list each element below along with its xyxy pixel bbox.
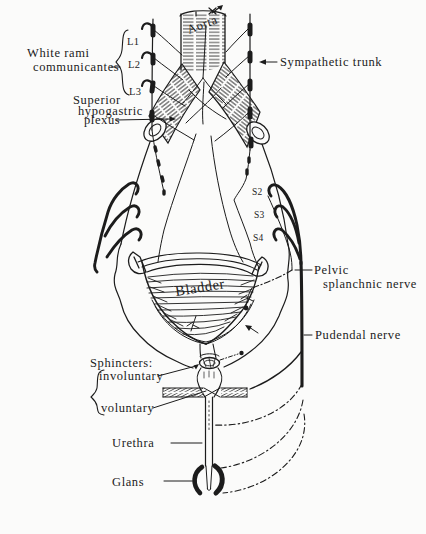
left-sacral-hook-1 — [95, 183, 138, 272]
involuntary-leader — [158, 366, 196, 376]
aorta-arrowhead-icon — [217, 5, 223, 11]
bladder-body — [129, 252, 269, 344]
label-white-rami-1: White rami — [27, 46, 90, 60]
vase-ticks — [204, 371, 214, 378]
right-trunk-tail — [234, 150, 258, 266]
urethra-and-glans — [195, 397, 223, 493]
label-sympathetic-trunk: Sympathetic trunk — [280, 55, 382, 69]
label-pudendal: Pudendal nerve — [315, 328, 401, 342]
label-white-rami-2: communicantes — [33, 60, 119, 74]
glans-left-crescent — [195, 467, 202, 493]
right-ureter-horn — [252, 257, 268, 276]
label-pelvic-splanchnic-1: Pelvic — [314, 263, 349, 277]
ring-dashdot-twig — [220, 354, 238, 360]
external-sphincter-x — [204, 388, 220, 397]
label-l2: L2 — [128, 59, 140, 70]
left-sacral-hook-3 — [107, 229, 141, 257]
label-urethra: Urethra — [112, 436, 154, 450]
label-sup-hypogastric-3: plexus — [84, 113, 120, 127]
nerve-twig-dot — [244, 306, 249, 311]
label-l3: L3 — [129, 86, 141, 97]
neck-collar — [200, 354, 219, 356]
glans-right-crescent — [215, 466, 222, 493]
label-s3: S3 — [254, 210, 265, 220]
urethra-tip — [206, 466, 212, 491]
hypogastric-nerve-right — [211, 136, 243, 262]
label-voluntary: voluntary — [101, 401, 154, 415]
pelvic-outline — [114, 134, 289, 368]
outer-wavy-left — [114, 244, 193, 368]
label-s4: S4 — [253, 233, 264, 243]
hypogastric-nerve-left — [158, 134, 196, 262]
label-l1: L1 — [127, 36, 139, 47]
label-involuntary: involuntary — [99, 369, 163, 383]
involuntary-arrowhead-icon — [194, 364, 200, 370]
left-sacral-hook-2 — [105, 206, 139, 236]
bladder-innervation-diagram: White rami communicantes L1 L2 L3 Aorta … — [0, 0, 426, 534]
bladder-rim-arcs — [138, 253, 261, 274]
label-glans: Glans — [112, 475, 144, 489]
ring-twig-dot — [239, 351, 243, 355]
pudendal-nerve-trunk — [301, 262, 302, 386]
label-pelvic-splanchnic-2: splanchnic nerve — [323, 277, 417, 291]
label-bladder: Bladder — [174, 275, 226, 299]
sympathetic-trunk-arrowhead-icon — [259, 59, 266, 65]
neck-funnel-lines — [200, 344, 216, 358]
label-sphincters: Sphincters: — [90, 356, 153, 370]
figure-canvas: White rami communicantes L1 L2 L3 Aorta … — [0, 0, 426, 534]
urogenital-diaphragm — [163, 388, 247, 397]
label-s2: S2 — [252, 187, 263, 197]
pudendal-branch-to-sphincter — [250, 352, 301, 389]
pudendal-branch-dashdot-2 — [221, 400, 303, 468]
